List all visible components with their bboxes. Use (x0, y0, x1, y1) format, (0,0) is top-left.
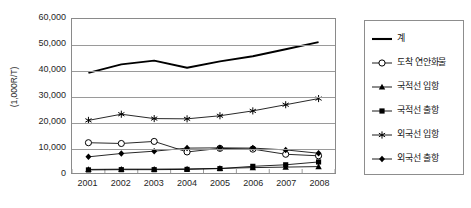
data-point-marker (379, 156, 385, 163)
data-point-marker (86, 167, 91, 172)
legend-item-label: 도착 연안화물 (394, 55, 446, 68)
data-point-marker (85, 154, 91, 161)
data-point-marker (152, 167, 157, 172)
data-point-marker (283, 162, 288, 167)
legend-item-label: 국적선 출항 (394, 103, 438, 116)
legend-item-label: 외국선 출항 (394, 151, 438, 164)
series-none (88, 42, 318, 73)
legend-marker-none-icon (370, 31, 394, 43)
legend-marker-asterisk-icon (370, 127, 394, 139)
legend-item[interactable]: 계 (370, 30, 405, 44)
data-point-marker (118, 150, 124, 157)
y-axis-tick-label: 0 (20, 169, 66, 178)
legend-item-label: 외국선 입항 (394, 127, 438, 140)
legend-marker-filled-diamond-icon (370, 151, 394, 163)
data-point-marker (217, 166, 222, 171)
x-axis-tick-labels: 20012002200320042005200620072008 (71, 178, 336, 196)
data-point-marker (379, 108, 384, 113)
legend-marker-open-circle-icon (370, 55, 394, 67)
data-point-marker (250, 164, 255, 169)
y-axis-tick-label: 50,000 (20, 39, 66, 48)
data-point-marker (85, 140, 91, 146)
legend-marker-filled-triangle-icon (370, 79, 394, 91)
series-asterisk (85, 95, 321, 124)
gridline (72, 149, 335, 150)
gridline (72, 123, 335, 124)
line-chart: (1,000R/T) 60,00050,00040,00030,00020,00… (0, 0, 471, 208)
gridline (72, 71, 335, 72)
data-point-marker (316, 159, 321, 164)
x-axis-tick-label: 2008 (299, 178, 339, 188)
data-point-marker (379, 60, 385, 66)
legend-item-label: 계 (394, 31, 405, 44)
legend-item-label: 국적선 입항 (394, 79, 438, 92)
legend-item[interactable]: 도착 연안화물 (370, 54, 446, 68)
y-axis-tick-labels: 60,00050,00040,00030,00020,00010,0000 (14, 0, 66, 208)
y-axis-tick-label: 40,000 (20, 65, 66, 74)
y-axis-tick-label: 10,000 (20, 143, 66, 152)
legend-marker-filled-square-icon (370, 103, 394, 115)
y-axis-tick-label: 60,000 (20, 13, 66, 22)
legend-item[interactable]: 국적선 입항 (370, 78, 438, 92)
y-axis-tick-label: 30,000 (20, 91, 66, 100)
gridline (72, 97, 335, 98)
gridline (72, 45, 335, 46)
data-point-marker (118, 140, 124, 146)
series-line (88, 42, 318, 73)
legend-item[interactable]: 국적선 출항 (370, 102, 438, 116)
data-point-marker (184, 167, 189, 172)
legend-item[interactable]: 외국선 출항 (370, 150, 438, 164)
series-line (88, 99, 318, 121)
plot-area (71, 18, 336, 174)
chart-legend: 계도착 연안화물국적선 입항국적선 출항외국선 입항외국선 출항 (364, 20, 464, 175)
data-point-marker (151, 138, 157, 144)
legend-item[interactable]: 외국선 입항 (370, 126, 438, 140)
y-axis-tick-label: 20,000 (20, 117, 66, 126)
data-point-marker (119, 167, 124, 172)
